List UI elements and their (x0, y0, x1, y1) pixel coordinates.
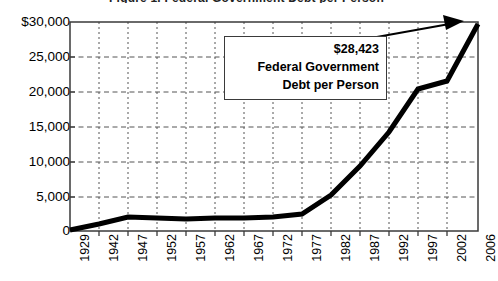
callout-line-two: Federal Government (229, 59, 379, 77)
callout-amount: $28,423 (229, 41, 379, 59)
callout-line-three: Debt per Person (229, 77, 379, 95)
callout-annotation-box: $28,423 Federal Government Debt per Pers… (224, 36, 387, 100)
